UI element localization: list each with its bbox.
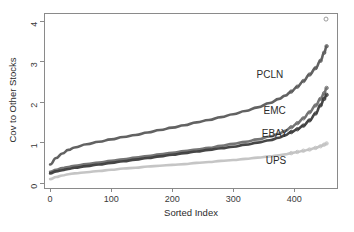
x-tick-label: 100 [104,194,119,204]
chart-page: 0100200300400 01234 PCLNEMCEBAYUPS Sorte… [0,0,354,232]
annotation-ups: UPS [266,155,287,166]
series-annotations: PCLNEMCEBAYUPS [257,69,289,166]
x-tick-label: 0 [48,194,53,204]
y-tick-label: 3 [29,62,39,67]
y-tick-label: 1 [29,143,39,148]
y-tick-label: 4 [29,22,39,27]
annotation-pcln: PCLN [257,69,284,80]
series-group [50,45,328,180]
plot-frame [44,13,337,188]
annotation-ebay: EBAY [262,128,288,139]
x-axis-ticks: 0100200300400 [48,188,302,204]
annotation-emc: EMC [264,105,286,116]
outlier-point [324,17,328,21]
x-tick-label: 400 [287,194,302,204]
x-tick-label: 300 [226,194,241,204]
y-tick-label: 0 [29,184,39,189]
x-axis-title: Sorted Index [164,207,218,218]
y-axis-title: Cov to Other Stocks [7,57,18,142]
y-tick-label: 2 [29,103,39,108]
outlier-markers [324,17,328,21]
plot-box [44,13,337,188]
y-axis-ticks: 01234 [29,21,44,189]
x-tick-label: 200 [165,194,180,204]
covariance-line-chart: 0100200300400 01234 PCLNEMCEBAYUPS Sorte… [0,0,354,232]
